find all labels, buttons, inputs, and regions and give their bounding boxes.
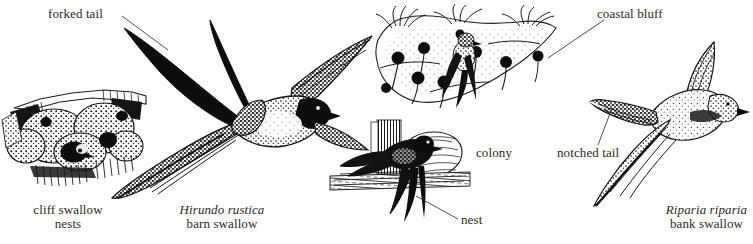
figure-bank-swallow-flight	[590, 42, 750, 206]
illustration-plate: forked tail cliff swallow nests Hirundo …	[0, 0, 753, 244]
label-nest: nest	[461, 213, 482, 227]
barn-swallow-common-name: barn swallow	[162, 217, 282, 231]
figure-bank-swallow-colony	[376, 3, 556, 108]
cliff-swallow-nests-line2: nests	[18, 217, 118, 231]
figure-barn-swallow-flight	[112, 20, 372, 199]
figure-cliff-swallow-nests	[2, 90, 146, 186]
figure-barn-swallow-nest	[330, 120, 470, 222]
bank-swallow-common-name: bank swallow	[660, 217, 753, 231]
label-bank-swallow: Riparia riparia bank swallow	[660, 203, 753, 231]
label-coastal-bluff: coastal bluff	[597, 7, 663, 21]
label-notched-tail: notched tail	[557, 146, 619, 160]
label-colony: colony	[476, 146, 512, 160]
label-barn-swallow: Hirundo rustica barn swallow	[162, 203, 282, 231]
bank-swallow-scientific-name: Riparia riparia	[660, 203, 753, 217]
cliff-swallow-nests-line1: cliff swallow	[18, 203, 118, 217]
label-forked-tail: forked tail	[48, 7, 103, 21]
label-cliff-swallow-nests: cliff swallow nests	[18, 203, 118, 231]
barn-swallow-scientific-name: Hirundo rustica	[162, 203, 282, 217]
